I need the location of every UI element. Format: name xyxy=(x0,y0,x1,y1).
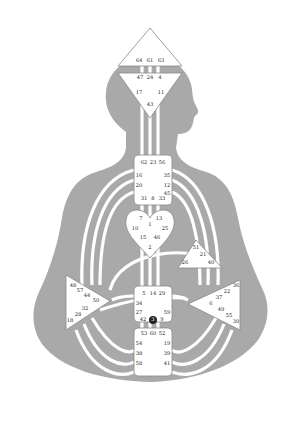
root-center: 53 60 52 54 19 38 39 58 41 xyxy=(134,328,172,376)
gate-49: 49 xyxy=(218,306,225,312)
gate-22: 22 xyxy=(224,288,231,294)
gate-50: 50 xyxy=(93,297,100,303)
gate-35: 35 xyxy=(164,172,171,178)
gate-23: 23 xyxy=(150,159,157,165)
gate-51: 51 xyxy=(193,244,200,250)
gate-42: 42 xyxy=(140,316,147,322)
gate-62: 62 xyxy=(141,159,148,165)
gate-33: 33 xyxy=(159,195,166,201)
gate-20: 20 xyxy=(136,182,143,188)
gate-27: 27 xyxy=(136,309,143,315)
gate-61: 61 xyxy=(147,57,154,63)
gate-47: 47 xyxy=(137,74,144,80)
gate-32: 32 xyxy=(82,305,89,311)
gate-2: 2 xyxy=(148,244,151,250)
gate-57: 57 xyxy=(77,287,84,293)
gate-54: 54 xyxy=(136,340,143,346)
gate-37: 37 xyxy=(216,294,223,300)
gate-13: 13 xyxy=(156,215,163,221)
gate-18: 18 xyxy=(67,317,74,323)
gate-11: 11 xyxy=(158,89,165,95)
gate-8: 8 xyxy=(151,195,154,201)
gate-39: 39 xyxy=(164,350,171,356)
gate-1: 1 xyxy=(148,221,151,227)
gate-38: 38 xyxy=(136,350,143,356)
gate-59: 59 xyxy=(164,309,171,315)
gate-19: 19 xyxy=(164,340,171,346)
gate-36: 36 xyxy=(233,282,240,288)
gate-53: 53 xyxy=(141,330,148,336)
bodygraph-chart: 64 61 63 47 24 4 17 11 43 62 23 56 16 35… xyxy=(0,0,299,432)
gate-7: 7 xyxy=(139,215,142,221)
gate-64: 64 xyxy=(136,57,143,63)
gate-14: 14 xyxy=(150,290,157,296)
gate-52: 52 xyxy=(159,330,166,336)
gate-25: 25 xyxy=(162,225,169,231)
gate-63: 63 xyxy=(158,57,165,63)
sacral-center: 5 14 29 34 27 59 42 3 9 xyxy=(134,286,172,324)
gate-29: 29 xyxy=(159,290,166,296)
gate-3: 3 xyxy=(151,316,154,322)
gate-44: 44 xyxy=(84,292,91,298)
gate-46: 46 xyxy=(154,234,161,240)
gate-56: 56 xyxy=(159,159,166,165)
gate-34: 34 xyxy=(136,300,143,306)
gate-31: 31 xyxy=(141,195,148,201)
gate-26: 26 xyxy=(182,259,189,265)
gate-9: 9 xyxy=(160,316,163,322)
gate-12: 12 xyxy=(164,182,171,188)
gate-48: 48 xyxy=(70,282,77,288)
gate-6: 6 xyxy=(209,300,212,306)
gate-58: 58 xyxy=(136,360,143,366)
gate-15: 15 xyxy=(140,234,147,240)
gate-40: 40 xyxy=(208,259,215,265)
gate-43: 43 xyxy=(147,101,154,107)
gate-24: 24 xyxy=(147,74,154,80)
gate-21: 21 xyxy=(200,251,207,257)
gate-60: 60 xyxy=(150,330,157,336)
throat-center: 62 23 56 16 35 20 12 45 31 8 33 xyxy=(134,155,172,205)
gate-30: 30 xyxy=(233,318,240,324)
gate-41: 41 xyxy=(164,360,171,366)
gate-17: 17 xyxy=(136,89,143,95)
gate-16: 16 xyxy=(136,172,143,178)
gate-55: 55 xyxy=(226,312,233,318)
head-center: 64 61 63 xyxy=(118,28,182,66)
gate-10: 10 xyxy=(132,225,139,231)
gate-5: 5 xyxy=(142,290,145,296)
gate-28: 28 xyxy=(75,311,82,317)
